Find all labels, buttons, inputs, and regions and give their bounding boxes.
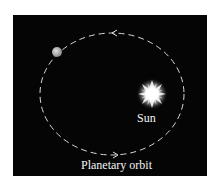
sun-label: Sun [137,112,156,124]
planet [52,47,62,57]
sun-icon [136,78,168,110]
orbit-diagram [0,0,219,184]
orbit-label: Planetary orbit [81,159,152,171]
